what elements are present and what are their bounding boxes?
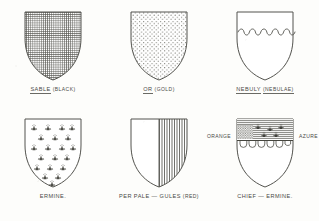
shield-ermine — [22, 117, 84, 189]
caption-or: OR (GOLD) — [106, 86, 212, 92]
annotation-orange: ORANGE — [207, 133, 231, 139]
caption-ermine: ERMINE. — [0, 193, 106, 199]
shield-sable — [22, 10, 84, 82]
caption-sable: SABLE (BLACK) — [0, 86, 106, 92]
annotation-azure-main: AZURE — [299, 133, 318, 139]
caption-chief-ermine-main: CHIEF — ERMINE. — [237, 193, 293, 199]
shield-cell-chief-ermine: ORANGE AZURE (BLUE) CHIEF — ERMINE. — [212, 113, 318, 221]
annotation-azure: AZURE (BLUE) — [299, 133, 319, 139]
shield-per-pale-gules — [128, 117, 190, 189]
shield-cell-nebuly: NEBULY (NEBULAE) — [212, 6, 318, 116]
caption-per-pale-gules: PER PALE — GULES (RED) — [106, 193, 212, 199]
shield-cell-sable: SABLE (BLACK) — [0, 6, 106, 116]
caption-per-pale-main: PER PALE — GULES — [119, 193, 181, 199]
caption-or-paren: (GOLD) — [155, 86, 175, 92]
or-field-fill — [128, 10, 190, 82]
caption-nebuly-main: NEBULY — [236, 86, 261, 94]
caption-chief-ermine: CHIEF — ERMINE. — [212, 193, 318, 199]
shield-cell-per-pale-gules: PER PALE — GULES (RED) — [106, 113, 212, 221]
shield-or — [128, 10, 190, 82]
orange-stipple-panel — [237, 125, 253, 139]
caption-ermine-main: ERMINE. — [40, 193, 66, 199]
caption-sable-main: SABLE — [30, 86, 50, 94]
shield-cell-ermine: ERMINE. — [0, 113, 106, 221]
caption-or-main: OR — [143, 86, 152, 94]
shield-chief-ermine: ORANGE AZURE (BLUE) — [234, 117, 296, 189]
caption-nebuly: NEBULY (NEBULAE) — [212, 86, 318, 92]
caption-per-pale-paren: (RED) — [183, 193, 199, 199]
sable-field-fill — [22, 10, 84, 82]
nebuly-shield-outline — [237, 12, 293, 80]
shield-nebuly — [234, 10, 296, 82]
heraldry-plate: SABLE (BLACK) — [0, 0, 319, 221]
caption-nebuly-paren: (NEBULAE) — [263, 86, 294, 94]
caption-sable-paren: (BLACK) — [53, 86, 76, 92]
shield-cell-or: OR (GOLD) — [106, 6, 212, 116]
